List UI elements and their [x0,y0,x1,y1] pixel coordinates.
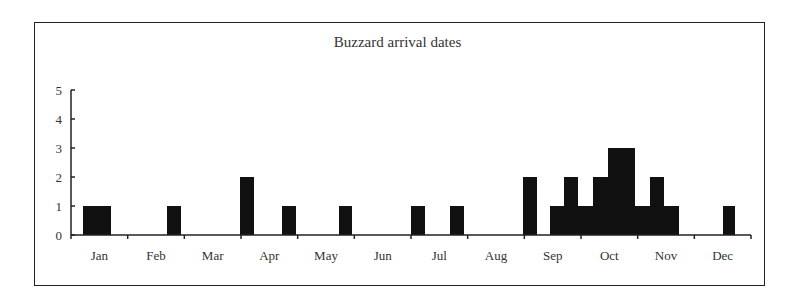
bar-series [83,148,735,235]
bar [339,206,352,235]
y-tick-label: 3 [56,141,63,156]
y-tick-label: 5 [56,83,63,98]
x-tick-label: Nov [655,248,678,263]
x-tick-label: Jul [432,248,448,263]
bar [564,177,578,235]
x-tick-label: Feb [146,248,166,263]
bar [240,177,254,235]
chart-plot: 012345 JanFebMarAprMayJunJulAugSepOctNov… [0,0,795,302]
bar [550,206,564,235]
bar [664,206,679,235]
x-tick-labels: JanFebMarAprMayJunJulAugSepOctNovDec [91,248,734,263]
bar [723,206,735,235]
bar [635,206,650,235]
bar [411,206,425,235]
bar [167,206,181,235]
x-tick-label: Dec [712,248,733,263]
bar [450,206,464,235]
x-tick-label: Oct [600,248,619,263]
y-tick-label: 0 [56,228,63,243]
y-tick-label: 2 [56,170,63,185]
x-tick-label: Mar [202,248,224,263]
bar [578,206,593,235]
bar [650,177,664,235]
y-tick-label: 1 [56,199,63,214]
x-tick-label: Jan [91,248,109,263]
bar [97,206,111,235]
bar [622,148,635,235]
bar [523,177,537,235]
y-tick-labels: 012345 [56,83,63,243]
y-tick-label: 4 [56,112,63,127]
x-tick-label: Sep [543,248,563,263]
x-tick-label: Apr [259,248,280,263]
x-tick-label: Aug [485,248,508,263]
bar [608,148,622,235]
x-tick-label: Jun [374,248,393,263]
bar [282,206,296,235]
bar [593,177,608,235]
x-tick-label: May [314,248,338,263]
bar [83,206,97,235]
